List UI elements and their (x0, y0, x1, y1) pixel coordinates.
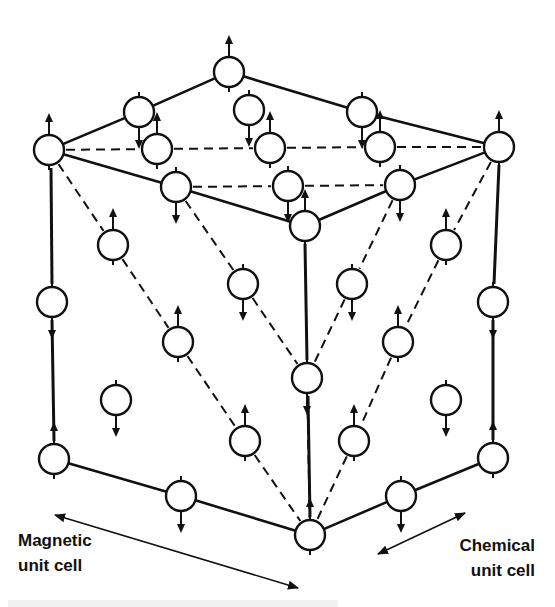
vertical-edge (51, 168, 52, 284)
atom-circle (255, 133, 285, 163)
chemical-label-line2: unit cell (459, 558, 535, 583)
atom-up-spin (295, 498, 325, 555)
arrowhead-icon (225, 35, 233, 44)
vertical-edge (494, 165, 499, 284)
atom-circle (228, 269, 258, 299)
arrowhead-icon (495, 110, 503, 119)
atom-up-spin (230, 404, 260, 461)
solid-bond (415, 464, 479, 491)
dashed-bond (193, 186, 271, 187)
dashed-bond (58, 164, 103, 231)
arrowhead-icon (489, 421, 497, 430)
atom-up-spin (383, 305, 413, 362)
atom-circle (386, 481, 416, 511)
atom-up-spin (484, 110, 514, 167)
arrowhead-icon (350, 404, 358, 413)
arrowhead-icon (245, 138, 253, 147)
atom-circle (163, 327, 193, 357)
dashed-bond (359, 200, 392, 268)
arrowhead-icon (306, 498, 314, 507)
atom-circle (431, 385, 461, 415)
dashed-bonds (58, 147, 490, 521)
atom-circle (101, 385, 131, 415)
atom-down-spin (228, 264, 258, 321)
atom-circle (166, 481, 196, 511)
magnetic-label-line1: Magnetic (18, 528, 92, 553)
dashed-bond (188, 356, 236, 427)
atom-up-spin (214, 35, 244, 92)
arrowhead-icon (174, 305, 182, 314)
atom-down-spin (478, 282, 508, 339)
atom-circle (161, 172, 191, 202)
atom-circle (478, 443, 508, 473)
solid-bond (153, 78, 216, 106)
atom-circle (385, 170, 415, 200)
atom-circle (273, 171, 303, 201)
dashed-bond (305, 185, 383, 186)
arrowhead-icon (348, 312, 356, 321)
solid-bond (324, 502, 387, 529)
chemical-unit-cell-arrow-icon (378, 513, 465, 554)
dashed-bond (406, 260, 439, 327)
atom-up-spin (163, 305, 193, 362)
arrowhead-icon (394, 305, 402, 314)
arrowhead-icon (241, 404, 249, 413)
atom-up-spin (339, 404, 369, 461)
atom-circle (142, 134, 172, 164)
arrowhead-icon (177, 524, 185, 533)
arrowhead-icon (396, 213, 404, 222)
arrowhead-icon (239, 312, 247, 321)
atom-circle (292, 363, 322, 393)
atom-up-spin (478, 421, 508, 478)
atom-up-spin (34, 113, 64, 170)
dashed-bond (253, 298, 298, 364)
magnetic-unit-cell-label: Magnetic unit cell (18, 528, 92, 578)
atom-circle (124, 97, 154, 127)
dashed-bond (287, 147, 363, 148)
arrowhead-icon (48, 330, 56, 339)
arrowhead-icon (112, 428, 120, 437)
atom-down-spin (161, 167, 191, 224)
arrowhead-icon (172, 215, 180, 224)
dashed-bond (255, 455, 301, 521)
atom-circle (98, 230, 128, 260)
atoms (34, 35, 514, 555)
solid-bond (195, 500, 295, 530)
atom-down-spin (431, 380, 461, 437)
chemical-label-line1: Chemical (459, 533, 535, 558)
atom-circle (290, 211, 320, 241)
dashed-bond (361, 358, 391, 426)
dashed-bond (186, 201, 234, 270)
atom-circle (383, 327, 413, 357)
solid-bond (414, 152, 485, 179)
arrowhead-icon (303, 406, 311, 415)
atom-circle (431, 230, 461, 260)
atom-up-spin (98, 208, 128, 265)
solid-bond (63, 118, 125, 144)
atom-down-spin (386, 476, 416, 533)
magnetic-label-line2: unit cell (18, 553, 92, 578)
arrowhead-icon (397, 524, 405, 533)
atom-down-spin (337, 264, 367, 321)
arrowhead-icon (109, 208, 117, 217)
atom-circle (234, 95, 264, 125)
atom-down-spin (292, 358, 322, 415)
atom-circle (34, 135, 64, 165)
atom-down-spin (101, 380, 131, 437)
atom-up-spin (431, 208, 461, 265)
atom-circle (230, 426, 260, 456)
arrowhead-icon (45, 113, 53, 122)
atom-circle (214, 57, 244, 87)
unit-cell-diagram (0, 0, 555, 607)
atom-down-spin (385, 165, 415, 222)
dashed-bond (66, 149, 140, 150)
atom-circle (484, 132, 514, 162)
arrowhead-icon (442, 208, 450, 217)
atom-circle (365, 132, 395, 162)
atom-circle (37, 287, 67, 317)
cropped-caption (8, 600, 338, 607)
atom-circle (347, 97, 377, 127)
chemical-unit-cell-label: Chemical unit cell (459, 533, 535, 583)
atom-circle (337, 269, 367, 299)
vertical-edge (305, 244, 307, 360)
